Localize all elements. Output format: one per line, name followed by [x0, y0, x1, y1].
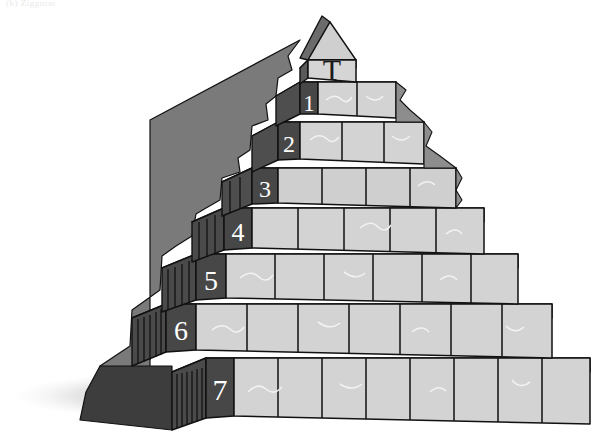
tier-6-light-faces	[196, 304, 552, 358]
figure-canvas: (b) Ziggurat	[0, 0, 594, 440]
tier-2-number: 2	[283, 131, 295, 157]
tier-6-number: 6	[174, 315, 188, 346]
tier-2-dark-faces	[252, 122, 278, 172]
tier-7-number: 7	[213, 373, 228, 406]
tier-2: 2	[252, 122, 424, 172]
tier-7: 7	[172, 358, 590, 430]
capstone: T	[300, 16, 356, 86]
tier-5-number: 5	[204, 265, 218, 296]
tier-7-light-faces	[234, 358, 590, 424]
capstone-dark-face	[300, 60, 308, 84]
tier-6: 6	[132, 304, 552, 366]
eroded-slope-base	[80, 366, 172, 430]
tier-3-light-faces	[278, 168, 456, 208]
tier-1-dark-faces	[276, 82, 300, 126]
capstone-letter: T	[323, 53, 341, 86]
tier-2-light-faces	[300, 122, 424, 164]
tier-1-number: 1	[303, 91, 315, 116]
tier-1: 1	[276, 82, 396, 126]
tier-4-number: 4	[232, 218, 245, 247]
tier-3-number: 3	[259, 176, 271, 202]
ziggurat-illustration: 7	[0, 0, 594, 440]
